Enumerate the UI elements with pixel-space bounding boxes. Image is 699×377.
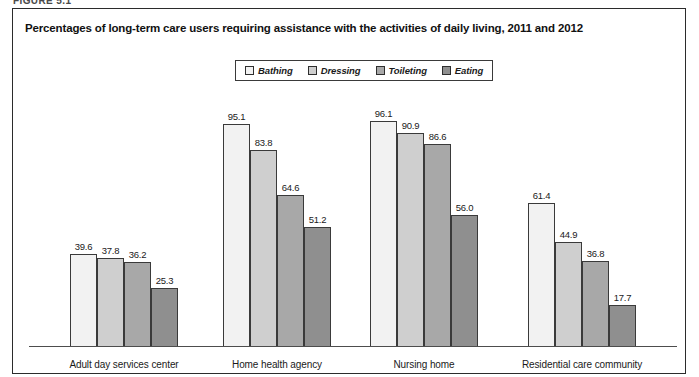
bar[interactable]: [451, 215, 478, 347]
x-axis-baseline: [29, 346, 677, 347]
chart-legend: Bathing Dressing Toileting Eating: [235, 60, 493, 81]
bar[interactable]: [397, 133, 424, 347]
bar[interactable]: [370, 121, 397, 347]
bar-column: 44.9: [555, 99, 582, 347]
bar[interactable]: [424, 144, 451, 348]
bar-value-label: 36.2: [129, 250, 147, 260]
bar-value-label: 83.8: [255, 138, 273, 148]
figure-title: Percentages of long-term care users requ…: [25, 22, 583, 34]
bar-value-label: 96.1: [375, 109, 393, 119]
bar-column: 25.3: [151, 99, 178, 347]
legend-item-dressing[interactable]: Dressing: [308, 65, 361, 76]
legend-item-toileting[interactable]: Toileting: [376, 65, 427, 76]
bar-column: 96.1: [370, 99, 397, 347]
bar[interactable]: [304, 227, 331, 347]
bar-column: 83.8: [250, 99, 277, 347]
bar-column: 39.6: [70, 99, 97, 347]
category-label: Residential care community: [472, 359, 692, 370]
bar-value-label: 56.0: [456, 203, 474, 213]
bar[interactable]: [223, 124, 250, 347]
bar-group: 95.183.864.651.2: [223, 99, 331, 347]
legend-label-dressing: Dressing: [321, 65, 361, 76]
bar-value-label: 61.4: [533, 191, 551, 201]
bar-column: 56.0: [451, 99, 478, 347]
bar-column: 36.8: [582, 99, 609, 347]
bar-value-label: 36.8: [587, 249, 605, 259]
bar-value-label: 90.9: [402, 121, 420, 131]
bar[interactable]: [555, 242, 582, 348]
bar-value-label: 51.2: [309, 215, 327, 225]
bar-value-label: 86.6: [429, 132, 447, 142]
bar-value-label: 39.6: [75, 242, 93, 252]
bar[interactable]: [528, 203, 555, 347]
bar[interactable]: [277, 195, 304, 347]
bar-column: 51.2: [304, 99, 331, 347]
bar-value-label: 17.7: [614, 293, 632, 303]
bar-column: 90.9: [397, 99, 424, 347]
bar[interactable]: [582, 261, 609, 347]
bar[interactable]: [151, 288, 178, 347]
bar-group: 39.637.836.225.3: [70, 99, 178, 347]
bar-column: 36.2: [124, 99, 151, 347]
bar-value-label: 64.6: [282, 183, 300, 193]
plot-area: 39.637.836.225.395.183.864.651.296.190.9…: [29, 99, 671, 347]
bar-value-label: 25.3: [156, 276, 174, 286]
bar[interactable]: [250, 150, 277, 347]
legend-label-bathing: Bathing: [258, 65, 293, 76]
bar-column: 86.6: [424, 99, 451, 347]
legend-item-eating[interactable]: Eating: [442, 65, 483, 76]
bar-column: 37.8: [97, 99, 124, 347]
bar[interactable]: [97, 258, 124, 347]
bar-column: 64.6: [277, 99, 304, 347]
bar[interactable]: [124, 262, 151, 347]
scan-artifact-figure-number: FIGURE 5.1: [13, 0, 83, 5]
legend-swatch-eating: [442, 66, 451, 75]
bar-value-label: 37.8: [102, 246, 120, 256]
bar-column: 95.1: [223, 99, 250, 347]
legend-swatch-toileting: [376, 66, 385, 75]
bar-group: 96.190.986.656.0: [370, 99, 478, 347]
legend-item-bathing[interactable]: Bathing: [245, 65, 293, 76]
figure-frame: Percentages of long-term care users requ…: [12, 8, 686, 374]
legend-label-toileting: Toileting: [389, 65, 427, 76]
bar[interactable]: [70, 254, 97, 347]
bar[interactable]: [609, 305, 636, 347]
legend-label-eating: Eating: [455, 65, 483, 76]
bar-value-label: 44.9: [560, 230, 578, 240]
bar-value-label: 95.1: [228, 112, 246, 122]
bar-column: 17.7: [609, 99, 636, 347]
legend-swatch-dressing: [308, 66, 317, 75]
bar-group: 61.444.936.817.7: [528, 99, 636, 347]
legend-swatch-bathing: [245, 66, 254, 75]
bar-column: 61.4: [528, 99, 555, 347]
